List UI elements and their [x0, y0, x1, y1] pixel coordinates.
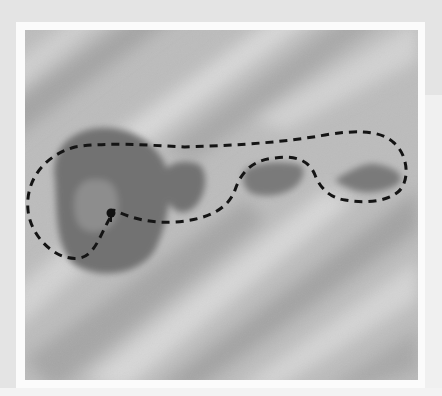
outer-background-bottom — [0, 388, 442, 396]
photograph — [25, 30, 418, 380]
start-dot — [107, 209, 116, 218]
patch-center — [74, 179, 118, 232]
outer-background-right — [425, 95, 442, 396]
